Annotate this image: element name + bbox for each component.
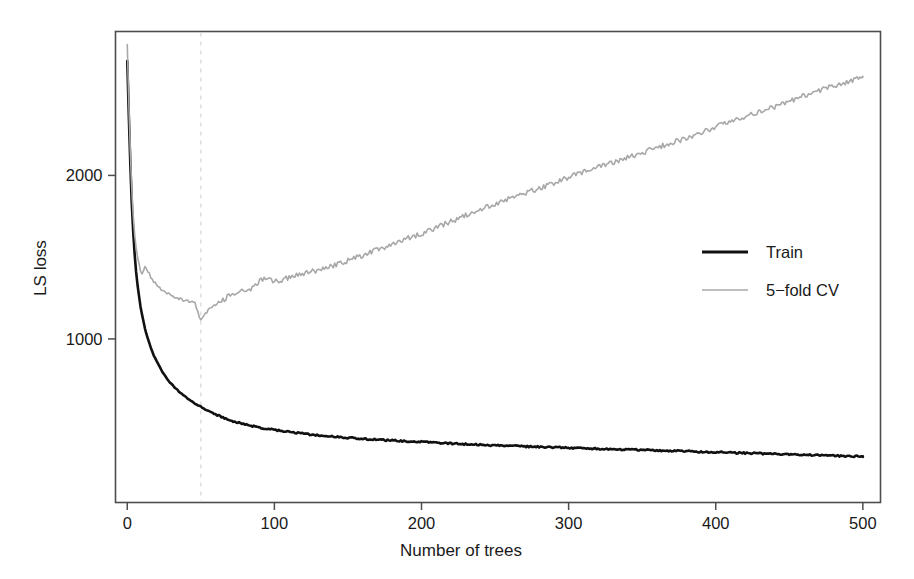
y-axis-title: LS loss: [31, 240, 50, 296]
x-axis-title: Number of trees: [400, 541, 522, 560]
y-tick-label: 1000: [66, 330, 103, 348]
x-tick-label: 400: [702, 514, 730, 532]
x-tick-label: 100: [261, 514, 289, 532]
y-tick-label: 2000: [66, 166, 103, 184]
x-tick-label: 300: [555, 514, 583, 532]
plot-canvas: 0100200300400500 10002000 Number of tree…: [0, 0, 914, 579]
x-tick-label: 200: [408, 514, 436, 532]
x-tick-label: 0: [123, 514, 132, 532]
legend-label-train: Train: [766, 243, 803, 261]
legend-label-5-fold-cv: 5−fold CV: [766, 281, 839, 299]
chart-figure: 0100200300400500 10002000 Number of tree…: [0, 0, 914, 579]
x-tick-label: 500: [849, 514, 877, 532]
